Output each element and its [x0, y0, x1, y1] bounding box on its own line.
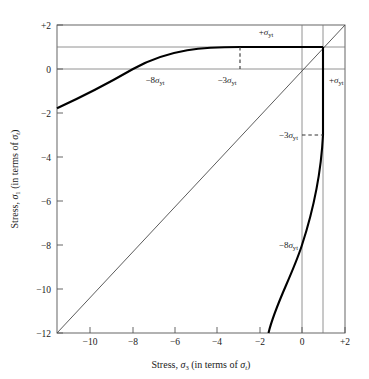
x-title-prefix: Stress, [152, 359, 178, 370]
svg-text:Stress, σ3 (in terms of σt): Stress, σ3 (in terms of σt) [152, 359, 251, 371]
ann-minus-8-sigma-yt-right: −8σyt [279, 240, 298, 251]
x-title-open: (in terms of [191, 359, 238, 371]
y-title-open: (in terms of [9, 141, 21, 188]
svg-text:Stress, σ1 (in terms of σt): Stress, σ1 (in terms of σt) [9, 130, 21, 229]
x-tick-label-5: 0 [300, 337, 305, 347]
ann-3-sub: yt [339, 79, 344, 86]
ann-4-sign: −3 [279, 130, 289, 140]
y-tick-label-1: 0 [46, 65, 51, 75]
ann-0-sign: −8 [145, 75, 155, 85]
y-title-prefix: Stress, [9, 202, 20, 228]
x-tick-label-4: −2 [255, 337, 265, 347]
ann-1-sign: −3 [217, 75, 227, 85]
x-tick-label-2: −6 [170, 337, 180, 347]
envelope-lower-right-branch [269, 135, 324, 333]
ann-4-sub: yt [293, 134, 298, 141]
y-tick-label-0: +2 [41, 21, 51, 31]
curve-annotations: −8σyt −3σyt +σyt +σyt −3σyt −8σyt [145, 27, 343, 251]
x-axis-tick-labels: −10 −8 −6 −4 −2 0 +2 [83, 337, 351, 347]
ann-minus-3-sigma-yt-top: −3σyt [217, 75, 236, 86]
figure-container: −10 −8 −6 −4 −2 0 +2 +2 0 −2 −4 −6 −8 −1… [0, 0, 369, 379]
y-tick-label-2: −2 [41, 109, 51, 119]
x-axis-ticks [90, 327, 345, 333]
y-tick-label-5: −8 [41, 241, 51, 251]
y-axis-title: Stress, σ1 (in terms of σt) [9, 130, 21, 229]
y-axis-tick-labels: +2 0 −2 −4 −6 −8 −10 −12 [36, 21, 51, 339]
guide-lines [240, 47, 323, 135]
ann-5-sign: −8 [279, 240, 289, 250]
x-tick-label-6: +2 [340, 337, 350, 347]
y-tick-label-3: −4 [41, 153, 51, 163]
ann-5-sub: yt [293, 244, 298, 251]
failure-envelope-chart: −10 −8 −6 −4 −2 0 +2 +2 0 −2 −4 −6 −8 −1… [0, 0, 369, 379]
y-tick-label-6: −10 [36, 285, 51, 295]
ann-0-sub: yt [159, 79, 164, 86]
y-axis-ticks [57, 25, 63, 333]
y-tick-label-4: −6 [41, 197, 51, 207]
ann-minus-3-sigma-yt-right: −3σyt [279, 130, 298, 141]
x-axis-title: Stress, σ3 (in terms of σt) [152, 359, 251, 371]
y-tick-label-7: −12 [36, 329, 51, 339]
ann-1-sub: yt [231, 79, 236, 86]
x-tick-label-0: −10 [83, 337, 98, 347]
y-title-close: ) [9, 130, 21, 133]
ann-plus-sigma-yt-right: +σyt [329, 75, 344, 86]
ann-minus-8-sigma-yt-left: −8σyt [145, 75, 164, 86]
x-tick-label-3: −4 [212, 337, 222, 347]
x-title-close: ) [247, 359, 250, 371]
ann-plus-sigma-yt-top: +σyt [259, 27, 274, 38]
ann-2-sub: yt [268, 31, 273, 38]
x-tick-label-1: −8 [128, 337, 138, 347]
